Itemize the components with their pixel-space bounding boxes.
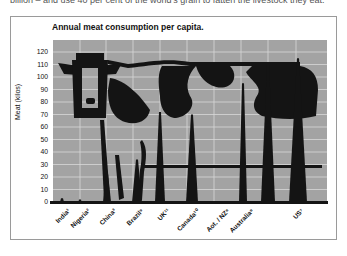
data-spike: [186, 115, 198, 203]
data-spike: [239, 83, 247, 202]
data-spike: [155, 112, 165, 202]
